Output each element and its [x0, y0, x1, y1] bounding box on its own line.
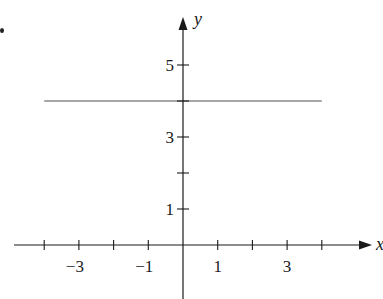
y-tick-label: 5 [166, 56, 175, 75]
x-tick-label: 3 [283, 257, 292, 276]
y-tick-label: 3 [166, 128, 175, 147]
y-axis-arrow-icon [179, 17, 188, 30]
chart-plot: xy−3−113135 [0, 0, 383, 299]
y-axis-label: y [192, 9, 202, 29]
x-tick-label: −3 [66, 257, 84, 276]
x-tick-label: 1 [213, 257, 222, 276]
x-tick-label: −1 [135, 257, 153, 276]
y-tick-label: 1 [166, 200, 175, 219]
x-axis-label: x [375, 234, 383, 254]
x-axis-arrow-icon [359, 241, 372, 250]
tick-labels: xy−3−113135 [66, 9, 383, 276]
